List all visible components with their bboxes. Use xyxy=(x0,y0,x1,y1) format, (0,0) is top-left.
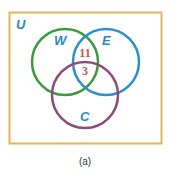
region-w-e-count: 11 xyxy=(79,46,90,60)
set-w-label: W xyxy=(54,33,68,48)
region-w-e-c-count: 3 xyxy=(82,64,88,78)
venn-diagram-figure: U W E C 11 3 (a) xyxy=(0,0,170,176)
set-e-label: E xyxy=(102,33,111,48)
figure-caption: (a) xyxy=(79,156,91,167)
universe-label: U xyxy=(16,17,26,32)
set-c-label: C xyxy=(80,109,90,124)
